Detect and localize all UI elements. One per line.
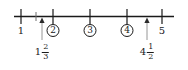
tick-label-1: 1: [18, 26, 24, 36]
tick-label-3-circled: 3: [84, 24, 97, 37]
right-fraction-numerator: 1: [147, 43, 154, 51]
right-fraction-stack: 1 2: [147, 43, 154, 62]
number-line-figure: 1 2 3 4 5 1 2 3 4 1 2: [0, 0, 188, 70]
right-fraction-denominator: 2: [147, 53, 154, 61]
right-fraction-whole: 4: [140, 47, 147, 57]
left-fraction-stack: 2 3: [42, 43, 49, 62]
left-fraction-numerator: 2: [42, 43, 49, 51]
marker-arrowhead-left: [39, 18, 44, 24]
left-fraction-denominator: 3: [42, 53, 49, 61]
marker-label-one-and-two-thirds: 1 2 3: [35, 43, 49, 62]
tick-label-5: 5: [159, 26, 165, 36]
marker-label-four-and-one-half: 4 1 2: [140, 43, 154, 62]
marker-arrowhead-right: [144, 18, 149, 24]
left-fraction-whole: 1: [35, 47, 42, 57]
tick-label-2-circled: 2: [47, 24, 60, 37]
tick-label-4-circled: 4: [121, 24, 134, 37]
